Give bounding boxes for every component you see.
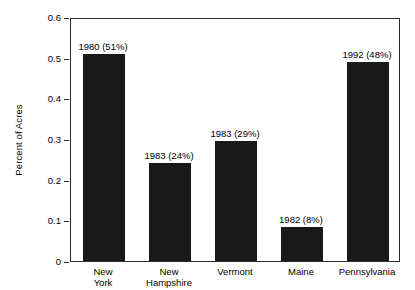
y-tick-label: 0.1	[0, 216, 70, 226]
bar-chart: Percent of Acres 00.10.20.30.40.50.6 198…	[0, 0, 415, 290]
bar-annotation: 1982 (8%)	[256, 214, 346, 225]
y-tick-mark	[64, 59, 69, 60]
bar-new-york	[83, 54, 125, 261]
y-tick-label: 0.6	[0, 13, 70, 23]
y-tick-label: 0.3	[0, 135, 70, 145]
y-tick-label: 0.4	[0, 94, 70, 104]
bar-annotation: 1980 (51%)	[58, 41, 148, 52]
y-tick-label: 0.5	[0, 54, 70, 64]
y-tick-label: 0.2	[0, 176, 70, 186]
y-tick-mark	[64, 181, 69, 182]
x-label-pennsylvania: Pennsylvania	[327, 266, 407, 277]
bar-annotation: 1992 (48%)	[322, 49, 412, 60]
y-tick-mark	[64, 18, 69, 19]
bar-annotation: 1983 (29%)	[190, 128, 280, 139]
bar-new-hampshire	[149, 163, 191, 261]
y-tick-mark	[64, 221, 69, 222]
bar-pennsylvania	[347, 62, 389, 261]
bar-vermont	[215, 141, 257, 261]
y-tick-label: 0	[0, 257, 70, 267]
y-tick-mark	[64, 99, 69, 100]
y-tick-mark	[64, 262, 69, 263]
bar-maine	[281, 227, 323, 261]
bar-annotation: 1983 (24%)	[124, 150, 214, 161]
y-tick-mark	[64, 140, 69, 141]
